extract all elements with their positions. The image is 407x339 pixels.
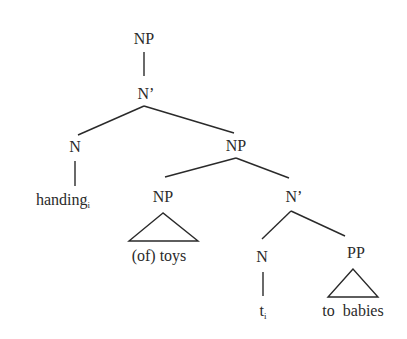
node-n-bar-low: N’ xyxy=(286,189,303,205)
node-n-left: N xyxy=(69,139,81,155)
node-np-mid: NP xyxy=(226,138,246,154)
edge-np-np xyxy=(165,158,236,177)
node-np-of-toys: NP xyxy=(153,189,173,205)
leaf-trace-index: i xyxy=(264,311,267,321)
edge-nbar-n xyxy=(78,106,144,135)
leaf-handing-index: i xyxy=(88,200,91,210)
triangle-to-babies xyxy=(328,269,378,297)
node-pp: PP xyxy=(347,245,365,261)
leaf-handing-word: handing xyxy=(36,191,88,208)
leaf-handing: handingi xyxy=(36,192,90,208)
node-n-bar-top: N’ xyxy=(138,86,155,102)
triangle-of-toys xyxy=(129,213,198,241)
leaf-to-babies: to babies xyxy=(322,303,383,319)
node-n-trace: N xyxy=(256,249,268,265)
leaf-of-toys: (of) toys xyxy=(132,248,187,264)
edge-nbar-pp xyxy=(291,211,345,236)
edge-np-nbar-low xyxy=(236,158,289,178)
node-root-np: NP xyxy=(134,31,154,47)
syntax-tree-edges xyxy=(0,0,407,339)
edge-nbar-np xyxy=(144,106,234,133)
edge-nbar-n-trace xyxy=(262,211,291,239)
leaf-trace: ti xyxy=(260,303,267,319)
